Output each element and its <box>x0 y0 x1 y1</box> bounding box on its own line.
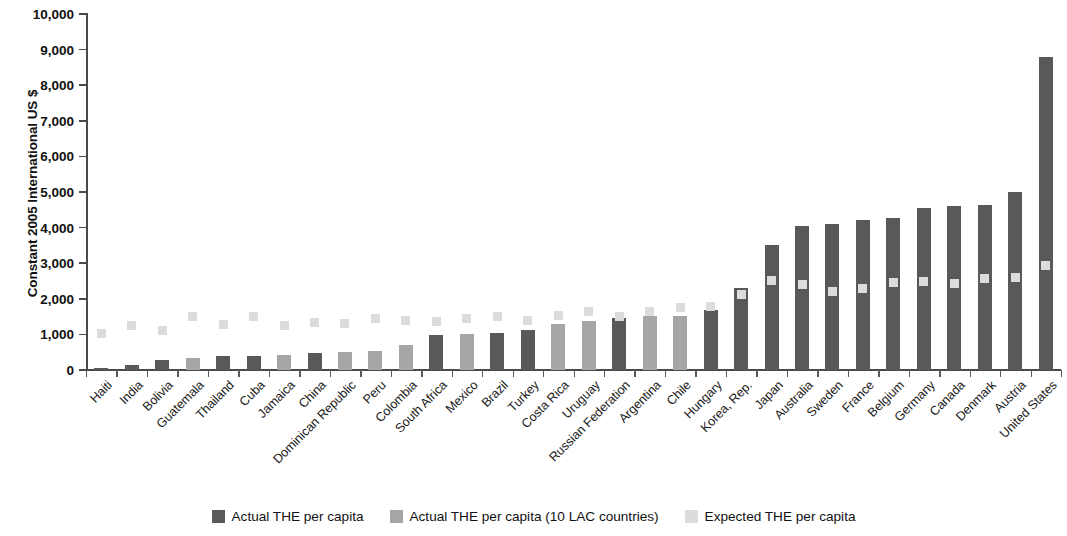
expected-value-marker <box>584 307 593 316</box>
expected-value-marker <box>858 284 867 293</box>
expected-value-marker <box>980 274 989 283</box>
bar <box>186 358 200 370</box>
expected-value-marker <box>676 303 685 312</box>
y-axis-tick-label: 0 <box>0 363 74 378</box>
expected-value-marker <box>554 311 563 320</box>
x-axis-tick-mark <box>116 370 117 377</box>
bar-group <box>86 14 116 370</box>
legend-label: Actual THE per capita <box>232 509 364 524</box>
x-axis-tick-mark <box>1031 370 1032 377</box>
y-axis-tick-mark <box>79 369 86 371</box>
bar-group <box>817 14 847 370</box>
bar-group <box>147 14 177 370</box>
bar-group <box>116 14 146 370</box>
x-axis-label: Haiti <box>88 378 116 406</box>
x-axis-tick-mark <box>208 370 209 377</box>
x-axis-tick-mark <box>787 370 788 377</box>
bar <box>643 316 657 370</box>
x-axis-tick-mark <box>86 370 87 377</box>
chart-legend: Actual THE per capitaActual THE per capi… <box>0 509 1067 524</box>
bar <box>338 352 352 370</box>
y-axis-tick-mark <box>79 262 86 264</box>
bar-group <box>269 14 299 370</box>
y-axis-tick-label: 10,000 <box>0 7 74 22</box>
expected-value-marker <box>310 318 319 327</box>
bar <box>704 310 718 370</box>
x-axis-tick-mark <box>269 370 270 377</box>
x-axis-tick-mark <box>360 370 361 377</box>
bar <box>734 288 748 370</box>
x-axis-label: Mexico <box>443 378 481 416</box>
expected-value-marker <box>97 329 106 338</box>
bar-chart: Constant 2005 International US $ 01,0002… <box>0 0 1067 536</box>
x-axis-tick-mark <box>238 370 239 377</box>
bar <box>551 324 565 370</box>
legend-swatch <box>212 510 225 523</box>
bar-group <box>482 14 512 370</box>
bar-group <box>177 14 207 370</box>
bar-group <box>513 14 543 370</box>
y-axis-tick-label: 3,000 <box>0 256 74 271</box>
expected-value-marker <box>798 280 807 289</box>
bar-group <box>574 14 604 370</box>
bar <box>765 245 779 370</box>
x-axis-tick-mark <box>604 370 605 377</box>
y-axis-tick-mark <box>79 334 86 336</box>
bar-group <box>452 14 482 370</box>
y-axis-tick-label: 5,000 <box>0 185 74 200</box>
expected-value-marker <box>706 302 715 311</box>
x-axis-tick-mark <box>391 370 392 377</box>
bar <box>460 334 474 370</box>
bar-group <box>787 14 817 370</box>
x-axis-tick-mark <box>1061 370 1062 377</box>
y-axis-tick-mark <box>79 156 86 158</box>
bar <box>125 365 139 370</box>
bar <box>1039 57 1053 370</box>
x-axis-tick-mark <box>817 370 818 377</box>
expected-value-marker <box>127 321 136 330</box>
x-axis-tick-mark <box>939 370 940 377</box>
bar-group <box>665 14 695 370</box>
expected-value-marker <box>828 287 837 296</box>
bar <box>673 316 687 370</box>
x-axis-tick-mark <box>452 370 453 377</box>
bar-group <box>970 14 1000 370</box>
y-axis-tick-mark <box>79 191 86 193</box>
x-axis-tick-mark <box>574 370 575 377</box>
bar-group <box>299 14 329 370</box>
bar <box>521 330 535 370</box>
bar <box>825 224 839 370</box>
x-axis-tick-mark <box>909 370 910 377</box>
expected-value-marker <box>645 307 654 316</box>
expected-value-marker <box>371 314 380 323</box>
expected-value-marker <box>219 320 228 329</box>
legend-item: Expected THE per capita <box>685 509 856 524</box>
expected-value-marker <box>462 314 471 323</box>
y-axis-tick-label: 6,000 <box>0 149 74 164</box>
bar <box>216 356 230 370</box>
expected-value-marker <box>615 312 624 321</box>
bar-group <box>330 14 360 370</box>
expected-value-marker <box>919 277 928 286</box>
y-axis-tick-mark <box>79 227 86 229</box>
legend-label: Expected THE per capita <box>705 509 856 524</box>
x-axis-tick-mark <box>970 370 971 377</box>
bar <box>247 356 261 370</box>
x-axis-tick-mark <box>848 370 849 377</box>
x-axis-tick-mark <box>543 370 544 377</box>
bar <box>978 205 992 370</box>
y-axis-tick-mark <box>79 84 86 86</box>
expected-value-marker <box>401 316 410 325</box>
y-axis-tick-label: 1,000 <box>0 327 74 342</box>
legend-swatch <box>390 510 403 523</box>
bar <box>277 355 291 370</box>
y-axis-tick-label: 8,000 <box>0 78 74 93</box>
y-axis-tick-label: 2,000 <box>0 291 74 306</box>
bar-group <box>1000 14 1030 370</box>
bar-group <box>238 14 268 370</box>
y-axis-tick-mark <box>79 120 86 122</box>
bar <box>308 353 322 370</box>
bar <box>612 318 626 370</box>
expected-value-marker <box>950 279 959 288</box>
bar-group <box>756 14 786 370</box>
